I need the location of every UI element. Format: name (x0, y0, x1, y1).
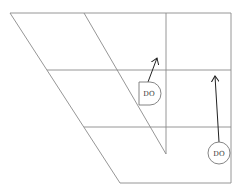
outer-diagonal (10, 13, 120, 183)
d-gate-symbol: DO (139, 58, 161, 105)
grid-lines (10, 13, 231, 183)
circle-label: DO (213, 150, 225, 158)
d-gate-label: DO (143, 90, 155, 98)
arrow-up-icon (215, 76, 219, 142)
diagram-canvas: DO DO (0, 0, 242, 192)
circle-symbol: DO (208, 76, 230, 164)
